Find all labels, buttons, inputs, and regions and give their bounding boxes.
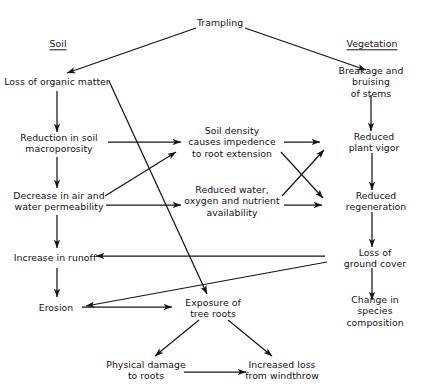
edge-permeability-to-soildensity	[105, 152, 176, 196]
node-plantvigor: Reduced plant vigor	[341, 131, 407, 154]
node-groundcover: Loss of ground cover	[343, 247, 408, 270]
node-vegetation: Vegetation	[346, 38, 397, 49]
node-organic: Loss of organic matter	[4, 76, 109, 87]
edge-trampling-to-organic	[67, 28, 196, 73]
node-water: Reduced water, oxygen and nutrient avail…	[184, 184, 279, 218]
node-soil: Soil	[49, 38, 66, 49]
node-trampling: Trampling	[197, 17, 243, 28]
node-macroporosity: Reduction in soil macroporosity	[20, 132, 97, 155]
node-breakage: Breakage and bruising of stems	[337, 65, 406, 99]
node-soildensity: Soil density causes impedence to root ex…	[188, 125, 275, 159]
node-physical: Physical damage to roots	[106, 359, 186, 382]
node-erosion: Erosion	[39, 302, 74, 313]
node-windthrow: Increased loss from windthrow	[245, 359, 319, 382]
flow-diagram: TramplingSoilVegetationLoss of organic m…	[0, 0, 440, 392]
node-regeneration: Reduced regeneration	[344, 190, 408, 213]
node-runoff: Increase in runoff	[14, 252, 96, 263]
edge-water-to-plantvigor	[282, 150, 324, 196]
node-species: Change in species composition	[343, 294, 408, 328]
edge-treeroots-to-physical	[155, 320, 199, 356]
node-permeability: Decrease in air and water permeability	[13, 190, 104, 213]
node-treeroots: Exposure of tree roots	[185, 297, 241, 320]
edge-treeroots-to-windthrow	[228, 320, 272, 356]
